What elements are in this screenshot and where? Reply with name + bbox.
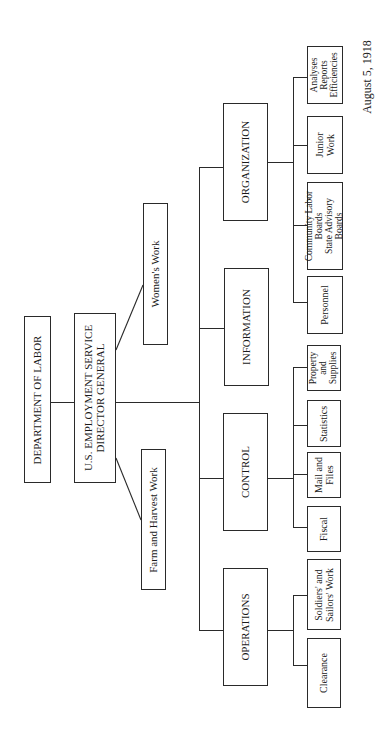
operations-box: OPERATIONS: [223, 568, 268, 686]
community-state-boards-box: Community Labor Boards State Advisory Bo…: [307, 182, 343, 270]
personnel-box: Personnel: [307, 276, 343, 334]
organization-subspine: [293, 77, 294, 302]
organization-box: ORGANIZATION: [223, 103, 268, 221]
analyses-reports-efficiencies-box: Analyses Reports Efficiencies: [307, 46, 343, 104]
connector-control-to-subspine: [268, 478, 293, 479]
connector-junior-work: [293, 145, 307, 146]
connector-dol-to-director: [51, 402, 74, 403]
fiscal-label: Fiscal: [319, 517, 330, 541]
connector-analyses: [293, 77, 307, 78]
department-of-labor-label: DEPARTMENT OF LABOR: [32, 335, 44, 464]
director-general-box: U.S. EMPLOYMENT SERVICE DIRECTOR GENERAL: [74, 313, 116, 483]
connector-director-to-spine: [116, 402, 199, 403]
connector-spine-to-operations: [199, 630, 223, 631]
main-spine: [199, 167, 200, 631]
control-box: CONTROL: [223, 413, 268, 531]
junior-work-box: Junior Work: [307, 116, 343, 174]
clearance-label: Clearance: [319, 653, 330, 693]
connector-clearance: [293, 665, 307, 666]
mail-files-box: Mail and Files: [307, 452, 341, 498]
fiscal-box: Fiscal: [307, 506, 341, 552]
connector-spine-to-control: [199, 478, 223, 479]
soldiers-sailors-work-label: Soldiers' and Sailors' Work: [314, 568, 335, 622]
control-subspine: [293, 367, 294, 527]
womens-work-label: Women's Work: [150, 241, 162, 308]
connector-spine-to-organization: [199, 167, 223, 168]
control-label: CONTROL: [240, 446, 252, 498]
information-label: INFORMATION: [241, 289, 253, 365]
chart-date: August 5, 1918: [360, 40, 375, 114]
mail-files-label: Mail and Files: [314, 457, 335, 493]
director-line-1: U.S. EMPLOYMENT SERVICE: [82, 325, 94, 471]
farm-harvest-work-label: Farm and Harvest Work: [148, 467, 160, 573]
connector-organization-to-subspine: [268, 162, 293, 163]
community-state-boards-label: Community Labor Boards State Advisory Bo…: [305, 191, 345, 261]
connector-property: [293, 367, 307, 368]
property-supplies-box: Property and Supplies: [307, 345, 341, 391]
organization-label: ORGANIZATION: [240, 121, 252, 204]
connector-mail-files: [293, 474, 307, 475]
farm-harvest-work-box: Farm and Harvest Work: [141, 449, 166, 590]
connector-statistics: [293, 425, 307, 426]
information-box: INFORMATION: [224, 268, 269, 386]
department-of-labor-box: DEPARTMENT OF LABOR: [24, 316, 51, 483]
connector-spine-to-information: [199, 328, 224, 329]
connector-operations-to-subspine: [268, 630, 293, 631]
soldiers-sailors-work-box: Soldiers' and Sailors' Work: [307, 559, 341, 630]
junior-work-label: Junior Work: [315, 133, 336, 158]
connector-soldiers-sailors: [293, 595, 307, 596]
statistics-box: Statistics: [307, 400, 341, 447]
director-line-2: DIRECTOR GENERAL: [94, 344, 106, 453]
womens-work-box: Women's Work: [143, 203, 168, 345]
personnel-label: Personnel: [320, 285, 331, 324]
connector-personnel: [293, 302, 307, 303]
operations-label: OPERATIONS: [240, 593, 252, 660]
property-supplies-label: Property and Supplies: [309, 352, 339, 385]
clearance-box: Clearance: [307, 638, 341, 708]
operations-subspine: [293, 595, 294, 665]
director-general-label: U.S. EMPLOYMENT SERVICE DIRECTOR GENERAL: [83, 325, 106, 471]
statistics-label: Statistics: [319, 405, 330, 441]
analyses-reports-efficiencies-label: Analyses Reports Efficiencies: [310, 52, 340, 97]
connector-fiscal: [293, 527, 307, 528]
